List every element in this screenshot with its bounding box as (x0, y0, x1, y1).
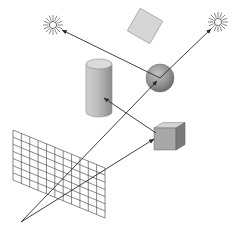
image-plane-grid (13, 130, 105, 218)
cylinder-object (86, 59, 112, 117)
grid-line (13, 180, 105, 218)
cube-front-face (154, 128, 176, 150)
grid-line (13, 151, 105, 189)
ray-tracing-diagram (0, 0, 242, 231)
left-sun-icon (43, 15, 63, 35)
grid-line (13, 144, 105, 182)
grid-line (13, 137, 105, 175)
right-sun-icon (208, 12, 228, 32)
cube-object (154, 123, 185, 150)
ray-eye-to-cube (21, 139, 154, 222)
grid-line (13, 159, 105, 197)
tilted-square-object (127, 8, 163, 44)
ray-sphere-to-right-sun (160, 29, 211, 78)
